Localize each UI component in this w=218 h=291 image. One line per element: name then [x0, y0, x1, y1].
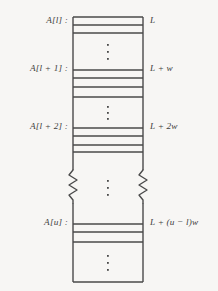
label-a-l: A[l] :	[0, 16, 68, 25]
cell-dividers	[73, 25, 143, 242]
label-a-l-plus-1: A[l + 1] :	[0, 64, 68, 73]
label-address-L-plus-2w: L + 2w	[150, 122, 178, 131]
ellipsis-3	[107, 180, 109, 196]
ellipsis-4	[107, 255, 109, 271]
zigzag-left-break-icon	[69, 170, 77, 203]
figure-canvas	[0, 0, 218, 291]
label-address-L: L	[150, 16, 155, 25]
array-layout-figure: A[l] : A[l + 1] : A[l + 2] : A[u] : L L …	[0, 0, 218, 291]
label-address-L-plus-u-minus-l-w: L + (u − l)w	[150, 218, 198, 227]
ellipsis-1	[107, 44, 109, 60]
zigzag-right-break-icon	[139, 170, 147, 203]
ellipsis-2	[107, 106, 109, 120]
label-address-L-plus-w: L + w	[150, 64, 173, 73]
label-a-u: A[u] :	[0, 218, 68, 227]
label-a-l-plus-2: A[l + 2] :	[0, 122, 68, 131]
